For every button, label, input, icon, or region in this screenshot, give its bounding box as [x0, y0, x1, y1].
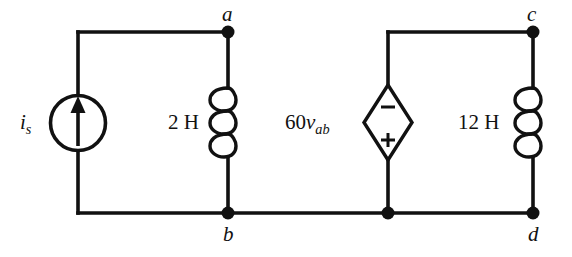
inductor-12h-symbol — [515, 88, 541, 157]
dependent-source-gain: 60 — [285, 110, 306, 134]
dependent-source-label: 60vab — [285, 112, 330, 136]
node-dot-b — [222, 207, 235, 220]
node-label-a: a — [222, 4, 233, 25]
node-label-b: b — [223, 224, 234, 245]
dependent-source-symbol — [364, 85, 412, 160]
circuit-diagram: a c b d is 2 H 60vab 12 H — [0, 0, 572, 257]
dependent-source-subscript: ab — [315, 121, 329, 137]
current-source-label: is — [20, 112, 31, 136]
node-dot-dep — [382, 207, 395, 220]
inductor-2h-symbol — [210, 88, 236, 157]
node-label-d: d — [528, 224, 539, 245]
current-source-subscript: s — [26, 121, 32, 137]
node-label-c: c — [527, 4, 536, 25]
node-dot-a — [222, 26, 235, 39]
inductor-2h-label: 2 H — [168, 112, 199, 133]
dependent-source-variable: v — [306, 110, 315, 134]
current-source-symbol — [51, 96, 106, 151]
node-dot-d — [527, 207, 540, 220]
inductor-12h-label: 12 H — [458, 112, 499, 133]
node-dot-c — [527, 26, 540, 39]
